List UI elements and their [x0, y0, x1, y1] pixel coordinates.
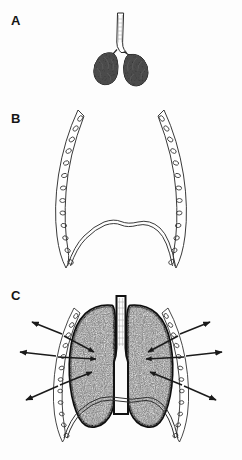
- panel-c-trachea: [114, 296, 128, 414]
- figure-root: A B C: [0, 0, 242, 460]
- panel-label-b: B: [11, 112, 21, 125]
- panel-a-left-lung-collapsed: [94, 53, 118, 85]
- anatomy-illustration: [0, 0, 242, 460]
- panel-label-a: A: [11, 14, 21, 27]
- panel-a-trachea: [113, 13, 130, 56]
- panel-b-right-rib-cage: [158, 110, 186, 268]
- panel-b-diaphragm: [68, 220, 176, 266]
- panel-a-right-lung-collapsed: [124, 54, 148, 86]
- panel-a-group: [94, 13, 148, 86]
- panel-c-group: [20, 296, 222, 442]
- panel-label-c: C: [11, 289, 21, 302]
- panel-b-group: [56, 110, 187, 268]
- panel-c-left-lung-inflated: [70, 306, 115, 427]
- panel-b-left-rib-cage: [56, 110, 84, 268]
